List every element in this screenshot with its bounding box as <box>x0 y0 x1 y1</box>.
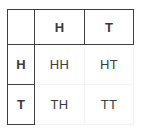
row-header-h: H <box>8 45 35 85</box>
cell-th: TH <box>35 85 85 125</box>
column-header-h: H <box>35 10 85 45</box>
row-header-t: T <box>8 85 35 125</box>
table-header-row: H T <box>8 10 134 45</box>
outcome-table: H T H HH HT T TH TT <box>7 9 134 125</box>
outcome-table-container: H T H HH HT T TH TT <box>0 0 141 132</box>
corner-cell <box>8 10 35 45</box>
cell-tt: TT <box>85 85 134 125</box>
column-header-t: T <box>85 10 134 45</box>
cell-hh: HH <box>35 45 85 85</box>
table-row: H HH HT <box>8 45 134 85</box>
table-row: T TH TT <box>8 85 134 125</box>
cell-ht: HT <box>85 45 134 85</box>
